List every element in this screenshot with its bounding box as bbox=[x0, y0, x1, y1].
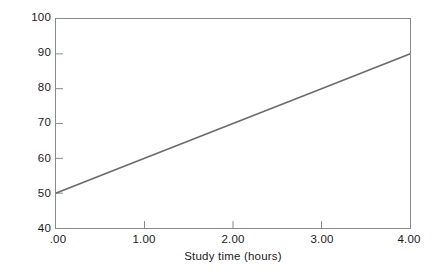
chart-figure: 100 90 80 70 60 50 40 Grade received .00… bbox=[0, 0, 440, 271]
plot-area bbox=[55, 18, 411, 229]
x-tick-label: 4.00 bbox=[379, 232, 439, 246]
y-axis-ticks bbox=[56, 54, 63, 193]
y-tick-label: 70 bbox=[5, 117, 51, 129]
y-tick-label: 60 bbox=[5, 153, 51, 165]
x-tick-label: .00 bbox=[28, 232, 88, 246]
plot-canvas bbox=[56, 19, 410, 228]
y-tick-label: 50 bbox=[5, 188, 51, 200]
x-tick-label: 3.00 bbox=[292, 232, 352, 246]
x-tick-label: 1.00 bbox=[114, 232, 174, 246]
y-tick-label: 80 bbox=[5, 82, 51, 94]
data-line-predicted-grade bbox=[56, 54, 410, 193]
y-axis-title: Grade received bbox=[0, 0, 16, 50]
x-tick-label: 2.00 bbox=[203, 232, 263, 246]
x-axis-ticks bbox=[145, 221, 322, 228]
x-axis-title: Study time (hours) bbox=[55, 249, 411, 263]
x-axis-tick-labels: .00 1.00 2.00 3.00 4.00 bbox=[0, 232, 440, 248]
